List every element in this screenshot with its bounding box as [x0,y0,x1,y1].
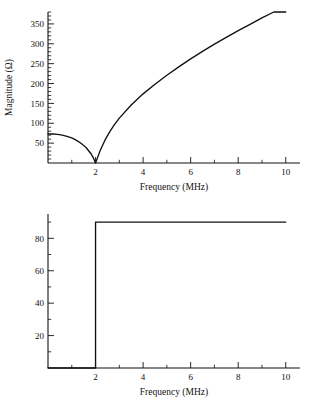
y-tick-label: 50 [35,138,45,148]
y-tick-label: 250 [31,59,45,69]
y-tick-label: 40 [35,298,45,308]
y-tick-label: 150 [31,99,45,109]
x-tick-label: 4 [141,372,146,382]
magnitude-plot: 50100150200250300350246810Frequency (MHz… [0,0,318,200]
x-tick-label: 10 [281,167,291,177]
data-curve [48,12,286,163]
x-axis-title: Frequency (MHz) [140,387,208,398]
x-tick-label: 4 [141,167,146,177]
y-tick-label: 350 [31,19,45,29]
phase-plot: 20406080246810Frequency (MHz) [0,200,318,414]
x-axis-title: Frequency (MHz) [140,182,208,193]
x-tick-label: 8 [236,372,241,382]
x-tick-label: 6 [188,167,193,177]
y-tick-label: 100 [31,118,45,128]
y-axis-title: Magnitude (Ω) [4,59,15,116]
y-tick-label: 300 [31,39,45,49]
x-tick-label: 2 [93,372,98,382]
y-tick-label: 200 [31,79,45,89]
data-curve [48,222,286,368]
y-tick-label: 60 [35,266,45,276]
impedance-figure: 50100150200250300350246810Frequency (MHz… [0,0,318,414]
y-tick-label: 80 [35,234,45,244]
y-tick-label: 20 [35,331,45,341]
x-tick-label: 8 [236,167,241,177]
x-tick-label: 10 [281,372,291,382]
x-tick-label: 6 [188,372,193,382]
x-tick-label: 2 [93,167,98,177]
